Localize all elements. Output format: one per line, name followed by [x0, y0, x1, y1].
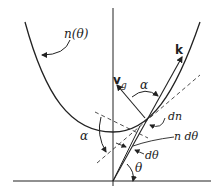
dtheta-arrow-left — [116, 143, 126, 147]
dtheta-label: dθ — [145, 149, 159, 162]
curve-label: n(θ) — [64, 27, 89, 41]
alpha-left-label: α — [80, 129, 88, 143]
dn-pointer — [150, 118, 165, 126]
theta-arc — [127, 164, 133, 181]
dtheta-arrow-right — [135, 150, 144, 154]
ndtheta-label: n dθ — [174, 130, 199, 143]
diagram-canvas: n(θ) k v g α α dn n dθ dθ θ — [0, 0, 216, 194]
k-label: k — [175, 43, 184, 57]
vg-label: v — [113, 73, 121, 87]
curve-pointer-arrow — [42, 40, 70, 55]
alpha-arc-top — [132, 91, 158, 97]
theta-label: θ — [135, 161, 143, 175]
ndtheta-pointer — [133, 137, 174, 146]
alpha-top-label: α — [140, 78, 148, 92]
alpha-arc-left — [99, 117, 106, 152]
vg-subscript: g — [121, 80, 127, 90]
normal-dashed-line — [95, 112, 148, 138]
dn-label: dn — [168, 110, 182, 123]
